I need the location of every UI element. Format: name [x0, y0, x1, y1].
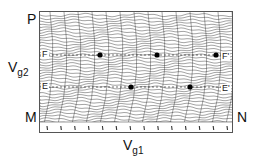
label-p: P [27, 12, 36, 26]
trace-waterfall [40, 12, 233, 133]
line-e-left-label: E [41, 82, 49, 91]
line-e-right-label: E' [221, 84, 231, 93]
line-f-right-label: F' [221, 52, 230, 61]
label-n: N [237, 110, 247, 124]
x-axis-label-sub: g1 [132, 145, 143, 156]
y-axis-label-sub: g2 [17, 67, 28, 78]
charge-stability-plot: F F' E E' [39, 11, 233, 133]
line-f-left-label: F [41, 50, 49, 59]
x-axis-label: Vg1 [123, 138, 143, 156]
y-axis-label: Vg2 [8, 60, 28, 78]
y-axis-label-main: V [8, 59, 17, 75]
x-axis-label-main: V [123, 137, 132, 153]
label-m: M [25, 110, 37, 124]
